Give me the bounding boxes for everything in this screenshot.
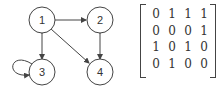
matrix-cell: 0: [164, 39, 180, 56]
node-2: 2: [87, 7, 113, 33]
matrix-cell: 0: [164, 23, 180, 40]
matrix-cell: 0: [148, 23, 164, 40]
node-4: 4: [87, 59, 113, 85]
node-label: 3: [39, 66, 45, 78]
matrix-cell: 0: [180, 23, 196, 40]
matrix-cell: 0: [148, 6, 164, 23]
node-label: 1: [39, 14, 45, 26]
right-bracket: [210, 4, 216, 78]
directed-graph: 1 2 3 4: [0, 0, 135, 90]
node-label: 4: [97, 66, 103, 78]
matrix-cell: 1: [164, 6, 180, 23]
edge-1-4: [51, 29, 89, 63]
matrix-cell: 1: [180, 39, 196, 56]
matrix-cell: 0: [180, 56, 196, 73]
matrix-cell: 0: [148, 56, 164, 73]
left-bracket: [140, 4, 146, 78]
matrix-cell: 1: [180, 6, 196, 23]
matrix-cell: 1: [148, 39, 164, 56]
node-1: 1: [29, 7, 55, 33]
node-3: 3: [29, 59, 55, 85]
matrix-grid: 0 1 1 1 0 0 0 1 1 0 1 0 0 1 0 0: [148, 6, 212, 72]
matrix-cell: 1: [164, 56, 180, 73]
node-label: 2: [97, 14, 103, 26]
adjacency-matrix: 0 1 1 1 0 0 0 1 1 0 1 0 0 1 0 0: [140, 4, 216, 80]
